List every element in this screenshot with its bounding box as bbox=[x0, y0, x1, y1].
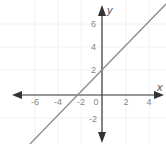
coordinate-plane: y x -6 -4 -2 0 2 4 6 4 2 -2 bbox=[0, 0, 166, 144]
svg-text:2: 2 bbox=[91, 65, 96, 75]
svg-text:-4: -4 bbox=[54, 97, 62, 107]
svg-text:-2: -2 bbox=[77, 97, 85, 107]
svg-text:4: 4 bbox=[146, 97, 151, 107]
svg-text:-6: -6 bbox=[31, 97, 39, 107]
svg-text:-2: -2 bbox=[89, 114, 97, 124]
x-tick-labels: -6 -4 -2 0 2 4 bbox=[31, 97, 152, 107]
svg-text:2: 2 bbox=[123, 97, 128, 107]
x-axis-left-arrow-icon bbox=[12, 91, 22, 99]
svg-text:4: 4 bbox=[91, 42, 96, 52]
x-axis-label: x bbox=[156, 81, 163, 93]
y-axis-up-arrow-icon bbox=[98, 5, 106, 16]
grid bbox=[0, 0, 166, 144]
y-axis-down-arrow-icon bbox=[98, 132, 106, 143]
y-tick-labels: 6 4 2 -2 bbox=[89, 19, 97, 124]
plotted-line bbox=[30, 4, 166, 144]
svg-text:6: 6 bbox=[91, 19, 96, 29]
y-axis-label: y bbox=[106, 4, 114, 16]
svg-text:0: 0 bbox=[93, 97, 98, 107]
